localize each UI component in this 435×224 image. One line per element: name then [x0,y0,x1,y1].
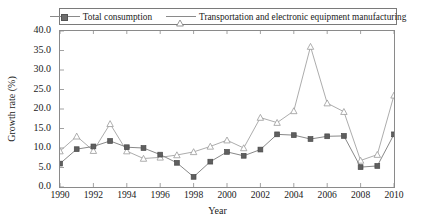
transportation-series-point [241,145,247,151]
total-consumption-series-point [124,145,129,150]
y-axis-tick-label: 30.0 [34,64,52,74]
y-axis-tick-label: 5.0 [39,162,52,172]
transportation-series-point [190,149,196,155]
total-consumption-series-point [241,153,246,158]
total-consumption-series-point [358,165,363,170]
legend-label-total-consumption: Total consumption [83,12,152,22]
y-axis-tick-label: 35.0 [34,45,52,55]
transportation-series-point [291,108,297,114]
total-consumption-series-point [258,147,263,152]
total-consumption-series-point [291,133,296,138]
x-axis-tick-label: 1996 [142,190,178,200]
total-consumption-series-point [308,137,313,142]
total-consumption-series-point [275,132,280,137]
x-axis-tick-label: 1990 [42,190,78,200]
total-consumption-series-point [392,132,394,137]
legend-label-transportation: Transportation and electronic equipment … [199,12,406,22]
total-consumption-series-point [60,161,62,166]
x-axis-tick-label: 2002 [242,190,278,200]
total-consumption-series-point [74,147,79,152]
y-axis-tick-label: 25.0 [34,84,52,94]
y-axis-tick-label: 10.0 [34,142,52,152]
total-consumption-series-point [108,139,113,144]
x-axis-tick-label: 2000 [209,190,245,200]
total-consumption-series-point [158,152,163,157]
transportation-series-point [74,133,80,139]
y-axis-tick-label: 15.0 [34,123,52,133]
transportation-series-point [257,114,263,120]
filled-square-marker-icon [61,14,68,21]
y-axis-tick-label: 20.0 [34,103,52,113]
x-axis-tick-label: 1998 [176,190,212,200]
total-consumption-series-point [375,164,380,169]
legend-line-sample [50,12,80,21]
total-consumption-series-point [208,159,213,164]
chart-canvas [60,31,394,187]
x-axis-tick-labels: 1990199219941996199820002002200420062008… [0,190,435,204]
x-axis-tick-label: 1994 [109,190,145,200]
total-consumption-series-point [325,134,330,139]
x-axis-tick-label: 2004 [276,190,312,200]
transportation-series-point [224,137,230,143]
x-axis-tick-label: 2010 [376,190,412,200]
legend-entry-transportation: Transportation and electronic equipment … [166,12,406,22]
total-consumption-series-point [225,150,230,155]
transportation-series-point [391,92,394,98]
total-consumption-series-point [191,174,196,179]
y-axis-tick-label: 40.0 [34,25,52,35]
legend-entry-total-consumption: Total consumption [50,12,152,22]
x-axis-tick-label: 2008 [343,190,379,200]
transportation-series-point [324,100,330,106]
transportation-series-point [207,143,213,149]
x-axis-title: Year [0,205,435,216]
plot-area [59,30,395,188]
legend-line-sample [166,12,196,21]
transportation-series-point [107,121,113,127]
total-consumption-series-point [91,144,96,149]
chart-legend: Total consumption Transportation and ele… [59,8,397,25]
x-axis-tick-label: 1992 [75,190,111,200]
total-consumption-series-point [141,146,146,151]
open-triangle-marker-icon [176,13,184,31]
transportation-series-point [307,43,313,49]
transportation-series-point [341,109,347,115]
transportation-series-point [374,151,380,157]
y-axis-tick-labels: 0.05.010.015.020.025.030.035.040.0 [0,30,55,188]
total-consumption-series-point [342,134,347,139]
growth-rate-line-chart: Total consumption Transportation and ele… [0,0,435,224]
x-axis-tick-label: 2006 [309,190,345,200]
total-consumption-series-point [175,160,180,165]
